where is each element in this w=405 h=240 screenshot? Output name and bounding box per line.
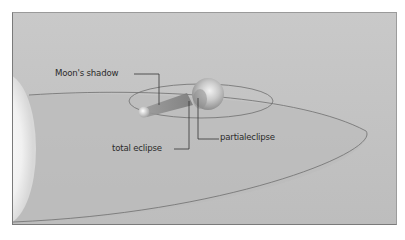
moon xyxy=(139,107,150,118)
label-total-eclipse: total eclipse xyxy=(112,143,162,153)
eclipse-diagram xyxy=(13,13,397,225)
diagram-frame xyxy=(12,12,397,225)
orbital-plane xyxy=(13,94,368,223)
shadow-on-earth xyxy=(193,89,207,109)
label-moons-shadow: Moon's shadow xyxy=(55,68,118,78)
label-partial-eclipse: partialeclipse xyxy=(220,132,275,142)
